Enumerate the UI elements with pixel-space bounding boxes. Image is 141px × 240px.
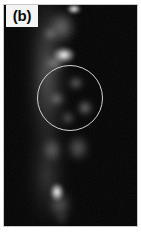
micrograph-plate: (b) — [4, 5, 137, 226]
micrograph-image — [4, 5, 137, 226]
panel-label: (b) — [6, 5, 38, 27]
region-of-interest-circle — [37, 65, 103, 131]
filament-lower-segment — [22, 125, 72, 226]
figure-panel-b: (b) — [0, 0, 141, 240]
